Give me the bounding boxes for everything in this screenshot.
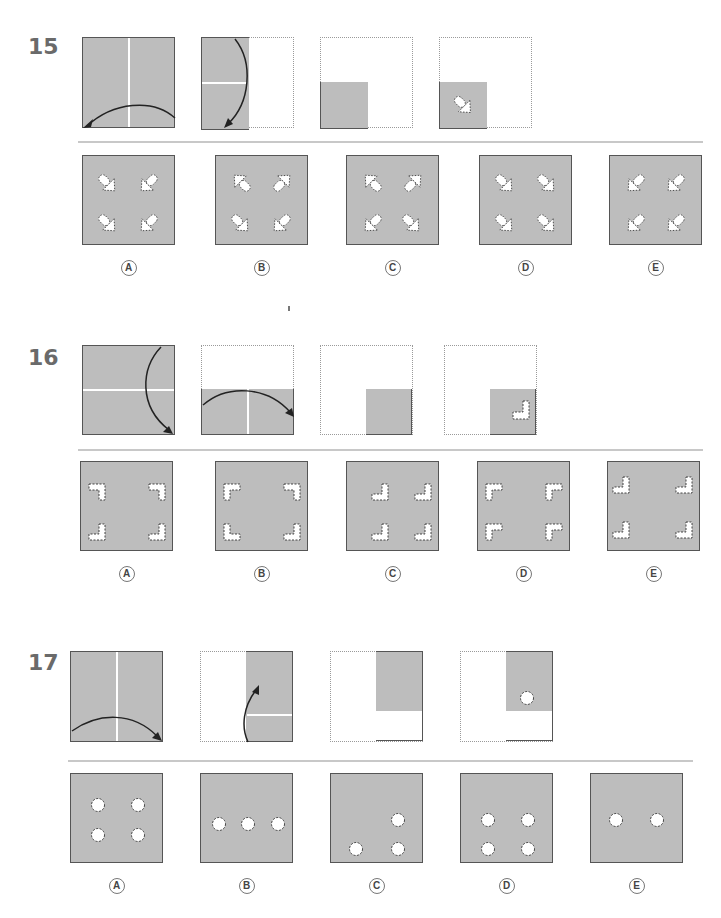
q16-option-d[interactable] [477, 461, 570, 551]
q17-option-e[interactable] [590, 773, 683, 863]
hole-pattern-icon [480, 156, 573, 246]
option-label-b[interactable]: B [254, 260, 270, 276]
q17-step3-quarter [330, 651, 423, 742]
option-label-d[interactable]: D [518, 260, 534, 276]
q17-option-a[interactable] [70, 773, 163, 863]
q17-option-b[interactable] [200, 773, 293, 863]
q16-option-a[interactable] [80, 461, 173, 551]
q16-option-b[interactable] [215, 461, 308, 551]
hole-pattern-icon [610, 156, 703, 246]
q16-option-e[interactable] [607, 461, 700, 551]
hole-pattern-icon [71, 774, 164, 864]
fold-arrow-icon [83, 38, 176, 129]
question-number-17: 17 [28, 650, 59, 675]
hole-pattern-icon [591, 774, 684, 864]
q15-option-d[interactable] [479, 155, 572, 245]
q16-step1-full-square [82, 345, 175, 435]
fold-arrow-icon [71, 652, 164, 743]
q17-option-c[interactable] [330, 773, 423, 863]
q15-step4-punched [439, 37, 532, 128]
q17-step1-full-square [70, 651, 163, 742]
hole-pattern-icon [216, 462, 309, 552]
q15-option-c[interactable] [346, 155, 439, 245]
hole-pattern-icon [201, 774, 294, 864]
hole-pattern-icon [347, 462, 440, 552]
l-hole-icon [445, 346, 538, 436]
q17-step2-half [200, 651, 293, 742]
option-label-b[interactable]: B [239, 878, 255, 894]
fold-arrow-icon [202, 346, 295, 436]
question-number-15: 15 [28, 34, 59, 59]
q15-step2-half [201, 37, 294, 128]
hole-pattern-icon [331, 774, 424, 864]
q16-option-c[interactable] [346, 461, 439, 551]
q15-step3-quarter [320, 37, 413, 128]
option-label-e[interactable]: E [646, 566, 662, 582]
q15-step1-full-square [82, 37, 175, 128]
hole-pattern-icon [478, 462, 571, 552]
q15-option-b[interactable] [215, 155, 308, 245]
option-label-b[interactable]: B [254, 566, 270, 582]
option-label-d[interactable]: D [499, 878, 515, 894]
fold-arrow-icon [201, 652, 294, 743]
q16-step3-quarter [320, 345, 413, 435]
arrow-hole-icon [440, 38, 533, 129]
option-label-a[interactable]: A [121, 260, 137, 276]
option-label-a[interactable]: A [109, 878, 125, 894]
q16-step4-punched [444, 345, 537, 435]
circle-hole-icon [461, 652, 554, 743]
divider [78, 141, 703, 143]
q15-option-a[interactable] [82, 155, 175, 245]
fold-arrow-icon [202, 38, 295, 129]
hole-pattern-icon [81, 462, 174, 552]
option-label-c[interactable]: C [369, 878, 385, 894]
divider [78, 449, 703, 451]
q17-option-d[interactable] [460, 773, 553, 863]
hole-pattern-icon [83, 156, 176, 246]
divider [68, 760, 693, 762]
hole-pattern-icon [608, 462, 701, 552]
q15-option-e[interactable] [609, 155, 702, 245]
hole-pattern-icon [461, 774, 554, 864]
question-number-16: 16 [28, 345, 59, 370]
option-label-c[interactable]: C [385, 260, 401, 276]
option-label-e[interactable]: E [629, 878, 645, 894]
q17-step4-punched [460, 651, 553, 742]
q16-step2-half [201, 345, 294, 435]
fold-arrow-icon [83, 346, 176, 436]
option-label-d[interactable]: D [516, 566, 532, 582]
option-label-c[interactable]: C [385, 566, 401, 582]
option-label-a[interactable]: A [119, 566, 135, 582]
hole-pattern-icon [216, 156, 309, 246]
stray-mark [288, 306, 290, 311]
hole-pattern-icon [347, 156, 440, 246]
option-label-e[interactable]: E [648, 260, 664, 276]
